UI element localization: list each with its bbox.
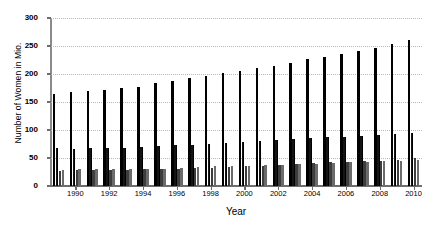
bar-group — [337, 18, 354, 186]
x-tick-label: 1998 — [194, 190, 228, 198]
bar — [298, 164, 301, 186]
bar — [78, 169, 81, 186]
bar-group — [405, 18, 422, 186]
bar — [315, 164, 318, 186]
bar — [366, 162, 369, 186]
x-tick-label: 2000 — [227, 190, 261, 198]
bar-group — [202, 18, 219, 186]
bar — [129, 169, 132, 186]
x-tick-label: 2002 — [261, 190, 295, 198]
bar — [417, 160, 420, 186]
bar-group — [168, 18, 185, 186]
bar — [95, 169, 98, 186]
y-tick-label: 150 — [8, 98, 38, 106]
x-tick-label: 1994 — [126, 190, 160, 198]
bar — [264, 165, 267, 186]
x-tick-label: 1992 — [92, 190, 126, 198]
x-tick-label: 1996 — [160, 190, 194, 198]
bar — [383, 161, 386, 186]
bar-group — [67, 18, 84, 186]
bar — [332, 163, 335, 186]
y-tick-label: 100 — [8, 126, 38, 134]
x-tick-label: 2006 — [329, 190, 363, 198]
bar — [248, 166, 251, 186]
bar-group — [321, 18, 338, 186]
y-tick-label: 200 — [8, 70, 38, 78]
y-tick-label: 0 — [8, 182, 38, 190]
bar — [62, 170, 65, 186]
bar-group — [101, 18, 118, 186]
bar-group — [135, 18, 152, 186]
bar-group — [219, 18, 236, 186]
bar — [112, 169, 115, 186]
bar — [146, 169, 149, 186]
x-axis-title: Year — [50, 206, 422, 217]
bar — [214, 166, 217, 186]
bar — [197, 167, 200, 186]
y-tick-label: 50 — [8, 154, 38, 162]
x-tick-label: 1990 — [58, 190, 92, 198]
bar-group — [304, 18, 321, 186]
bar-group — [185, 18, 202, 186]
bar-group — [118, 18, 135, 186]
bar-group — [84, 18, 101, 186]
x-tick-label: 2010 — [397, 190, 430, 198]
bar-group — [287, 18, 304, 186]
bar — [163, 169, 166, 186]
plot-area: 050100150200250300 — [50, 18, 422, 186]
y-tick-label: 300 — [8, 14, 38, 22]
x-tick-label: 2008 — [363, 190, 397, 198]
bar — [400, 161, 403, 186]
bar-group — [354, 18, 371, 186]
bar-group — [236, 18, 253, 186]
bar-group — [371, 18, 388, 186]
bar-group — [253, 18, 270, 186]
bar-group — [388, 18, 405, 186]
y-axis-title: Number of Women in Mio. — [13, 13, 23, 173]
bar-group — [50, 18, 67, 186]
bar — [180, 168, 183, 186]
bar — [349, 162, 352, 186]
x-tick-label: 2004 — [295, 190, 329, 198]
y-tick-label: 250 — [8, 42, 38, 50]
bar — [231, 166, 234, 186]
bar-group — [151, 18, 168, 186]
bar-group — [270, 18, 287, 186]
bar-chart: Number of Women in Mio. 0501001502002503… — [0, 0, 430, 233]
bar — [281, 165, 284, 186]
